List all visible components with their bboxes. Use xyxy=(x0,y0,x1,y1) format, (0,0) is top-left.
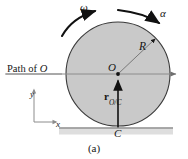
center-point-o xyxy=(116,72,120,76)
path-of-o-label: Path of O xyxy=(7,64,47,75)
path-of-o-prefix-text: Path of xyxy=(7,63,40,74)
coordinate-axes xyxy=(34,90,56,122)
axis-y-label: y xyxy=(30,90,34,99)
center-label: O xyxy=(108,62,116,73)
alpha-label: α xyxy=(160,8,166,19)
figure-graphics xyxy=(0,0,188,159)
figure-caption: (a) xyxy=(0,142,188,154)
angular-acceleration-arc xyxy=(118,10,159,23)
radius-label: R xyxy=(139,41,146,53)
rolling-disk-figure: Path of O ω α R O C y x rO/C (a) xyxy=(0,0,188,159)
vector-subscript-text: O/C xyxy=(109,98,122,107)
vector-roc-label: rO/C xyxy=(104,91,121,105)
omega-label: ω xyxy=(80,2,88,13)
axis-x-label: x xyxy=(56,120,60,129)
contact-point-label: C xyxy=(114,128,121,139)
path-of-o-point-text: O xyxy=(40,63,48,74)
